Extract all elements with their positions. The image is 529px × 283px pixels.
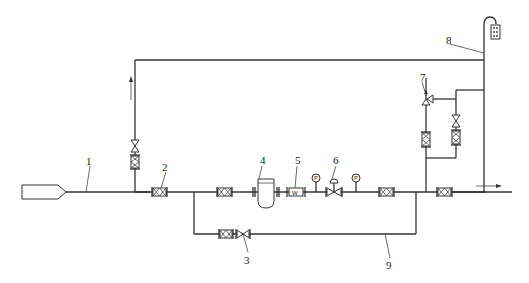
label-6: 6	[333, 154, 339, 166]
pressure-gauge-1: P	[312, 174, 320, 192]
gauge-symbol-1: P	[314, 175, 318, 181]
label-4: 4	[260, 154, 266, 166]
piping-diagram: W P P	[0, 0, 529, 283]
flame-arrester	[491, 25, 500, 39]
valve-after-regulator	[379, 187, 394, 197]
label-9: 9	[386, 259, 392, 271]
outlet-valve	[437, 187, 452, 197]
label-3: 3	[244, 254, 250, 266]
relief-valve-7	[422, 90, 433, 105]
riser-valves-right	[451, 115, 461, 145]
flow-arrow-up	[129, 76, 133, 100]
valve-2	[152, 187, 167, 197]
regulator-valve-6	[326, 179, 342, 197]
source-tank	[22, 185, 66, 199]
flow-arrow-right	[476, 184, 502, 188]
riser-valve-left	[421, 132, 431, 147]
pressure-gauge-2: P	[352, 174, 360, 192]
filter-symbol: W	[292, 190, 298, 196]
label-5: 5	[295, 154, 301, 166]
label-2: 2	[162, 161, 168, 173]
gauge-symbol-2: P	[354, 175, 358, 181]
vent-gooseneck	[484, 17, 496, 25]
filter-5: W	[287, 187, 305, 197]
vertical-branch-valves	[130, 140, 140, 169]
separator-4	[253, 179, 279, 208]
label-7: 7	[420, 71, 426, 83]
valve-before-separator	[217, 187, 232, 197]
label-8: 8	[446, 34, 452, 46]
label-1: 1	[86, 155, 92, 167]
